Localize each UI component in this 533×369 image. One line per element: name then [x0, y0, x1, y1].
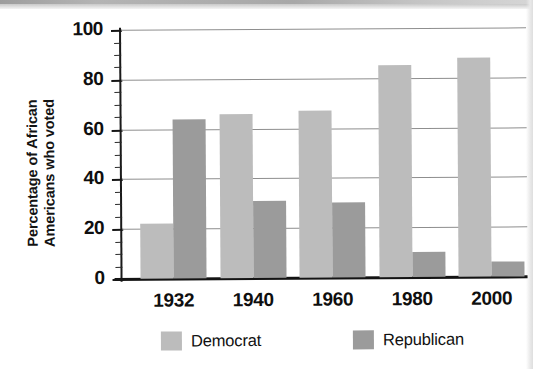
chart-legend: DemocratRepublican [161, 329, 521, 359]
y-tick-minor-50 [115, 154, 122, 155]
y-tick-minor-85 [114, 67, 121, 68]
legend-swatch-democrat [161, 331, 182, 350]
x-tick-label-1980: 1980 [367, 288, 457, 311]
y-tick-minor-55 [115, 142, 122, 143]
bar-republican-1932 [173, 119, 207, 279]
y-tick-label-20: 20 [32, 217, 104, 239]
x-tick-label-1940: 1940 [208, 289, 298, 312]
y-tick-minor-10 [115, 254, 122, 255]
x-tick-label-1932: 1932 [129, 289, 219, 312]
y-tick-minor-45 [115, 167, 122, 168]
bar-democrat-1980 [378, 65, 412, 277]
y-tick-minor-5 [115, 266, 122, 267]
y-tick-major-0 [113, 279, 124, 281]
bar-democrat-1940 [219, 114, 253, 278]
y-axis-tick-labels: 020406080100 [0, 0, 532, 2]
bar-republican-1960 [332, 203, 365, 278]
x-tick-label-2000: 2000 [447, 287, 533, 310]
bar-chart-figure: Percentage of African Americans who vote… [0, 0, 533, 369]
y-tick-label-0: 0 [32, 267, 104, 289]
y-tick-label-60: 60 [32, 118, 104, 140]
y-tick-label-80: 80 [31, 68, 103, 90]
y-tick-minor-65 [115, 117, 122, 118]
y-tick-label-100: 100 [31, 18, 103, 40]
y-tick-minor-90 [114, 55, 121, 56]
bar-republican-1940 [253, 201, 286, 278]
y-tick-minor-70 [114, 105, 121, 106]
x-axis-tick-labels: 19321940196019802000 [0, 0, 532, 2]
bar-democrat-2000 [457, 57, 491, 276]
y-tick-minor-25 [115, 217, 122, 218]
y-tick-minor-75 [114, 92, 121, 93]
legend-item-republican: Republican [353, 330, 464, 350]
legend-swatch-republican [353, 330, 374, 349]
legend-item-democrat: Democrat [161, 331, 261, 351]
bar-democrat-1932 [140, 224, 173, 279]
legend-label-democrat: Democrat [191, 331, 261, 350]
y-tick-minor-30 [115, 204, 122, 205]
bar-republican-2000 [491, 261, 524, 276]
gridline-100 [121, 27, 526, 30]
y-tick-label-40: 40 [32, 167, 104, 189]
bar-democrat-1960 [299, 111, 333, 278]
plot-area [121, 27, 528, 278]
gridlines [121, 27, 526, 29]
bar-republican-1980 [412, 252, 445, 277]
y-tick-minor-95 [114, 42, 121, 43]
x-tick-label-1960: 1960 [288, 288, 378, 311]
y-axis-ticks [0, 0, 532, 2]
legend-label-republican: Republican [383, 330, 464, 349]
y-tick-minor-35 [115, 192, 122, 193]
y-tick-minor-15 [115, 242, 122, 243]
